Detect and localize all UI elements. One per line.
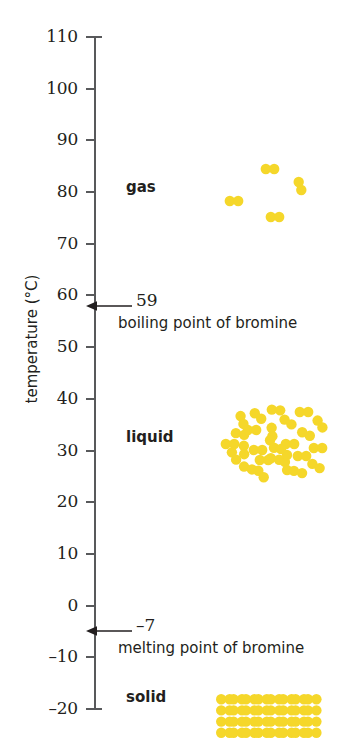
y-axis-tick-label: 10 [57,543,78,563]
annotation-boiling-value: 59 [136,290,158,310]
state-label-liquid: liquid [126,428,174,446]
y-axis-tick [86,36,95,38]
y-axis-tick-label: 0 [67,595,78,615]
y-axis-tick [86,191,95,193]
y-axis-tick [86,450,95,452]
y-axis-bottom-cap [94,708,102,710]
y-axis-tick-label: –10 [48,646,78,666]
y-axis-tick [86,294,95,296]
y-axis-tick [86,243,95,245]
y-axis-tick [86,346,95,348]
y-axis-top-cap [94,36,102,38]
y-axis-tick [86,708,95,710]
y-axis-tick-label: 70 [57,233,78,253]
particle-group-gas [212,164,332,224]
y-axis-tick-label: 20 [57,491,78,511]
y-axis-tick-label: 40 [57,388,78,408]
y-axis-spine [94,36,96,710]
state-label-solid: solid [126,688,166,706]
y-axis-tick-label: 60 [57,284,78,304]
y-axis-tick [86,139,95,141]
y-axis-tick-label: 100 [46,78,78,98]
y-axis-tick-label: 90 [57,129,78,149]
annotation-boiling-caption: boiling point of bromine [118,314,297,332]
left-arrow-icon [86,625,134,637]
y-axis-tick-label: 30 [57,440,78,460]
y-axis-tick [86,88,95,90]
y-axis-tick-label: 50 [57,336,78,356]
particle-group-solid [216,694,320,742]
y-axis-tick [86,501,95,503]
y-axis-tick-label: –20 [48,698,78,718]
y-axis-tick [86,398,95,400]
y-axis-tick [86,553,95,555]
y-axis-tick [86,656,95,658]
y-axis-tick-label: 80 [57,181,78,201]
states-of-matter-diagram: temperature (°C) 11010090807060504030201… [0,0,350,749]
y-axis-tick-label: 110 [46,26,78,46]
particle-group-liquid [228,404,340,488]
state-label-gas: gas [126,178,156,196]
y-axis-title: temperature (°C) [23,239,41,439]
left-arrow-icon [86,300,134,312]
annotation-melting-caption: melting point of bromine [118,639,304,657]
annotation-melting-value: –7 [136,615,155,635]
y-axis-tick [86,605,95,607]
